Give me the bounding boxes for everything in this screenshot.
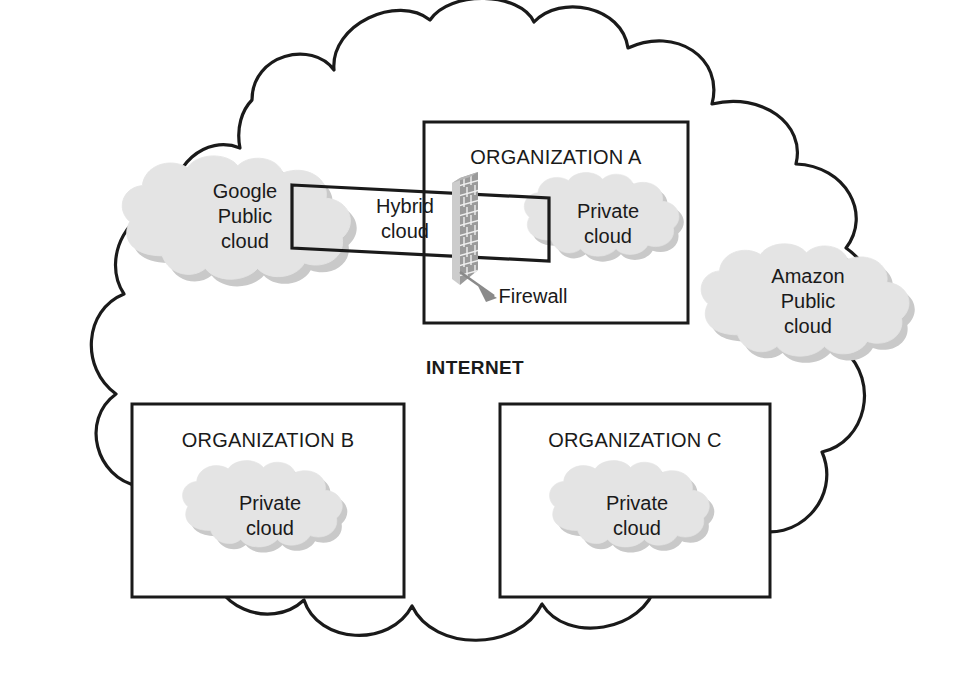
organization-b: ORGANIZATION B Private cloud: [132, 404, 404, 597]
amazon-cloud-label-line-1: Amazon: [771, 265, 844, 287]
firewall-side-face: [452, 178, 460, 285]
hybrid-cloud-label-line-2: cloud: [381, 220, 429, 242]
organization-a-label: ORGANIZATION A: [470, 146, 642, 168]
google-cloud-label-line-3: cloud: [221, 230, 269, 252]
organization-b-label: ORGANIZATION B: [182, 429, 354, 451]
firewall-label: Firewall: [499, 285, 568, 307]
cloud-architecture-diagram: Google Public cloud Amazon Public cloud …: [0, 0, 963, 695]
hybrid-cloud-label-line-1: Hybrid: [376, 195, 434, 217]
diagram-canvas: Google Public cloud Amazon Public cloud …: [0, 0, 963, 695]
google-cloud-label-line-2: Public: [218, 205, 272, 227]
private-cloud-a-label-line-1: Private: [577, 200, 639, 222]
private-cloud-b-label-line-1: Private: [239, 492, 301, 514]
internet-label: INTERNET: [426, 357, 524, 378]
google-cloud-label-line-1: Google: [213, 180, 278, 202]
amazon-cloud-label-line-2: Public: [781, 290, 835, 312]
private-cloud-c-label-line-1: Private: [606, 492, 668, 514]
private-cloud-c-label-line-2: cloud: [613, 517, 661, 539]
firewall-brick-wall: [452, 172, 480, 285]
organization-c-label: ORGANIZATION C: [548, 429, 722, 451]
organization-c: ORGANIZATION C Private cloud: [500, 404, 770, 597]
private-cloud-a-label-line-2: cloud: [584, 225, 632, 247]
amazon-cloud-label-line-3: cloud: [784, 315, 832, 337]
private-cloud-b-label-line-2: cloud: [246, 517, 294, 539]
